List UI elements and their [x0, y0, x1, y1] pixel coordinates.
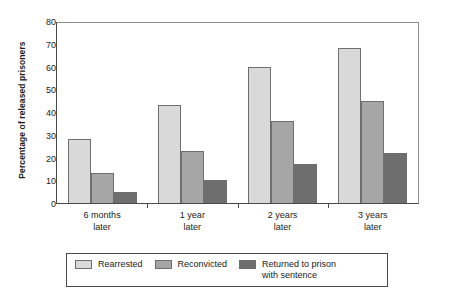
x-axis-tickmarks: [57, 204, 418, 209]
legend-item: Returned to prison with sentence: [239, 259, 354, 281]
chart-legend: RearrestedReconvictedReturned to prison …: [66, 253, 388, 287]
bar: [158, 105, 181, 203]
legend-swatch: [75, 260, 92, 269]
x-tickmark: [238, 204, 239, 208]
bar: [68, 139, 91, 203]
x-category-label-line: 2 years: [238, 210, 328, 222]
bar: [294, 164, 317, 203]
bar: [114, 192, 137, 203]
x-category-label-line: later: [328, 222, 418, 234]
x-category-label-line: 6 months: [57, 210, 147, 222]
bar-group: [57, 22, 147, 203]
legend-swatch: [239, 260, 256, 269]
legend-swatch: [155, 260, 172, 269]
bar-chart: Percentage of released prisoners 0102030…: [0, 0, 453, 304]
legend-label: Reconvicted: [178, 259, 228, 270]
bar-group: [238, 22, 328, 203]
bar: [204, 180, 227, 203]
x-category-label-line: 1 year: [147, 210, 237, 222]
bar-group: [328, 22, 418, 203]
x-tickmark: [147, 204, 148, 208]
bar: [91, 173, 114, 203]
bar: [338, 48, 361, 203]
legend-item: Reconvicted: [155, 259, 228, 270]
legend-label: Returned to prison with sentence: [262, 259, 354, 281]
bar: [271, 121, 294, 203]
x-category-label: 2 yearslater: [238, 210, 328, 233]
legend-label: Rearrested: [98, 259, 143, 270]
bar: [181, 151, 204, 203]
x-category-label: 3 yearslater: [328, 210, 418, 233]
x-axis-category-labels: 6 monthslater1 yearlater2 yearslater3 ye…: [57, 210, 418, 233]
x-category-label-line: later: [238, 222, 328, 234]
bar: [384, 153, 407, 203]
x-category-label: 6 monthslater: [57, 210, 147, 233]
y-axis-tickmarks: [0, 22, 60, 204]
bars-area: [57, 22, 418, 203]
x-tickmark: [328, 204, 329, 208]
bar-group: [147, 22, 237, 203]
x-category-label: 1 yearlater: [147, 210, 237, 233]
x-category-label-line: later: [147, 222, 237, 234]
x-category-label-line: 3 years: [328, 210, 418, 222]
x-category-label-line: later: [57, 222, 147, 234]
bar: [361, 101, 384, 203]
bar: [248, 67, 271, 204]
legend-item: Rearrested: [75, 259, 143, 270]
